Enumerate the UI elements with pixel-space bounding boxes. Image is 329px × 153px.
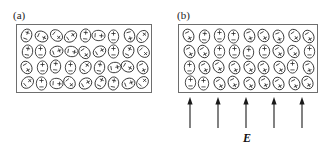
dipole	[213, 28, 226, 43]
dipole	[106, 75, 121, 92]
dipole	[298, 73, 317, 92]
field-arrow	[215, 97, 220, 128]
panel-b-dipole-grid	[179, 25, 317, 92]
panel-b-label: (b)	[177, 9, 190, 21]
dipole	[269, 74, 288, 93]
panel-a-label: (a)	[13, 9, 25, 21]
dipole	[240, 74, 259, 93]
dipole	[34, 44, 47, 59]
dipole	[107, 29, 120, 44]
dipole	[209, 57, 228, 76]
dipole	[48, 59, 62, 75]
dipole	[180, 26, 198, 45]
field-arrow	[243, 97, 248, 128]
dipole	[224, 73, 242, 92]
field-label-E: E	[243, 131, 251, 146]
dipole	[254, 26, 273, 45]
field-arrow	[271, 97, 276, 128]
dipole	[132, 73, 152, 93]
dipole	[258, 44, 271, 59]
dipole	[197, 76, 210, 91]
dipole	[183, 60, 196, 75]
field-arrow	[299, 97, 304, 128]
dipole	[184, 75, 197, 90]
dipole	[36, 60, 49, 75]
dipole	[35, 76, 48, 91]
dipole	[228, 44, 241, 59]
dipole	[91, 28, 107, 42]
panel-a-box	[16, 24, 152, 93]
dipole	[60, 27, 80, 46]
panel-b-box	[178, 24, 318, 93]
panel-a-dipole-grid	[17, 25, 151, 92]
figure-root: (a) (b) E	[0, 0, 329, 153]
dipole	[107, 44, 120, 59]
dipole	[227, 29, 240, 44]
field-arrow	[187, 97, 192, 128]
dipole	[303, 44, 316, 59]
dipole	[286, 59, 299, 74]
